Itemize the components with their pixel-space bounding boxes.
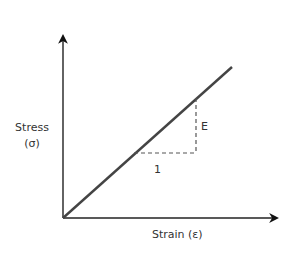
elastic-line <box>63 67 232 218</box>
y-axis-label: Stress <box>15 121 49 134</box>
slope-rise-label: E <box>201 120 208 133</box>
slope-run-label: 1 <box>154 163 161 176</box>
y-axis-symbol: (σ) <box>24 137 40 150</box>
stress-strain-diagram: E 1 Stress (σ) Strain (ε) <box>0 0 298 254</box>
x-axis-label: Strain (ε) <box>152 228 203 241</box>
